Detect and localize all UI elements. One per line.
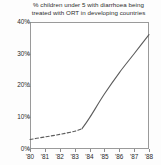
series-layer — [30, 22, 149, 149]
x-tick-mark — [75, 149, 76, 152]
x-tick-label: '82 — [52, 153, 68, 160]
x-tick-label: '81 — [37, 153, 53, 160]
x-tick-mark — [149, 149, 150, 152]
x-tick-label: '85 — [96, 153, 112, 160]
x-tick-mark — [30, 149, 31, 152]
series-line — [30, 129, 82, 140]
x-tick-mark — [134, 149, 135, 152]
chart-figure: % children under 5 with diarrhoea being … — [0, 0, 161, 165]
x-tick-mark — [90, 149, 91, 152]
x-tick-label: '84 — [82, 153, 98, 160]
x-tick-mark — [60, 149, 61, 152]
x-tick-label: '88 — [141, 153, 157, 160]
x-tick-mark — [104, 149, 105, 152]
x-tick-label: '86 — [111, 153, 127, 160]
x-tick-label: '87 — [126, 153, 142, 160]
x-tick-label: '80 — [22, 153, 38, 160]
series-line — [82, 35, 149, 129]
x-tick-label: '83 — [67, 153, 83, 160]
x-tick-mark — [45, 149, 46, 152]
x-tick-mark — [119, 149, 120, 152]
